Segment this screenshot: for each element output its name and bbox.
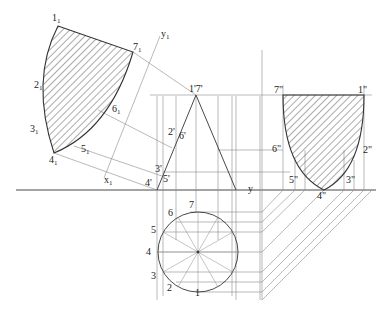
label-6-1: 61 bbox=[112, 104, 121, 117]
label-7-1: 71 bbox=[133, 42, 142, 55]
cone-top-view bbox=[158, 212, 238, 292]
label-t3: 3 bbox=[151, 271, 156, 281]
auxiliary-true-shape bbox=[43, 26, 133, 153]
label-7pp: 7" bbox=[274, 85, 283, 95]
label-5-1: 51 bbox=[81, 144, 90, 157]
label-t5: 5 bbox=[151, 225, 156, 235]
label-5pp: 5" bbox=[289, 175, 298, 185]
axis-label-x1: x1 bbox=[104, 175, 113, 188]
label-t2: 2 bbox=[167, 283, 172, 293]
axis-label-y1: y1 bbox=[161, 29, 170, 42]
label-3pp: 3" bbox=[346, 175, 355, 185]
label-1pp: 1" bbox=[358, 85, 367, 95]
label-t6: 6 bbox=[168, 208, 173, 218]
label-2-1: 21 bbox=[34, 80, 43, 93]
label-1-1: 11 bbox=[52, 13, 61, 26]
projection-drawing bbox=[0, 0, 392, 320]
label-4pp: 4" bbox=[317, 191, 326, 201]
label-6pp: 6" bbox=[272, 144, 281, 154]
label-1p7p: 1'7' bbox=[189, 84, 203, 94]
label-5p: 5' bbox=[163, 174, 170, 184]
label-t1: 1 bbox=[195, 288, 200, 298]
label-3p: 3' bbox=[155, 164, 162, 174]
label-6p: 6' bbox=[179, 131, 186, 141]
label-2pp: 2" bbox=[363, 145, 372, 155]
label-4-1: 41 bbox=[49, 155, 58, 168]
label-4p: 4' bbox=[145, 178, 152, 188]
label-3-1: 31 bbox=[30, 124, 39, 137]
axis-label-y: y bbox=[248, 184, 253, 194]
label-t4: 4 bbox=[146, 247, 151, 257]
label-t7: 7 bbox=[189, 200, 194, 210]
label-2p: 2' bbox=[168, 127, 175, 137]
